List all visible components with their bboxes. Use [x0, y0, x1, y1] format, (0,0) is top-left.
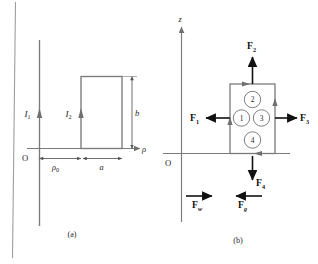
- physics-figure: I1 I2 O ρ ρ0 a b (a) z O: [0, 0, 318, 264]
- circle-label-3: 3: [260, 114, 264, 123]
- circle-label-2: 2: [251, 95, 255, 104]
- label-origin-b: O: [165, 158, 171, 168]
- dim-label-b: b: [135, 108, 140, 118]
- label-z-axis: z: [178, 15, 183, 24]
- figure-background: [0, 0, 318, 264]
- circle-label-4: 4: [251, 136, 255, 145]
- label-origin-a: O: [22, 153, 28, 163]
- dim-label-a: a: [100, 163, 104, 172]
- caption-a: (a): [67, 230, 76, 239]
- label-rho-axis: ρ: [141, 144, 146, 154]
- circle-label-1: 1: [240, 114, 244, 123]
- caption-b: (b): [233, 236, 243, 245]
